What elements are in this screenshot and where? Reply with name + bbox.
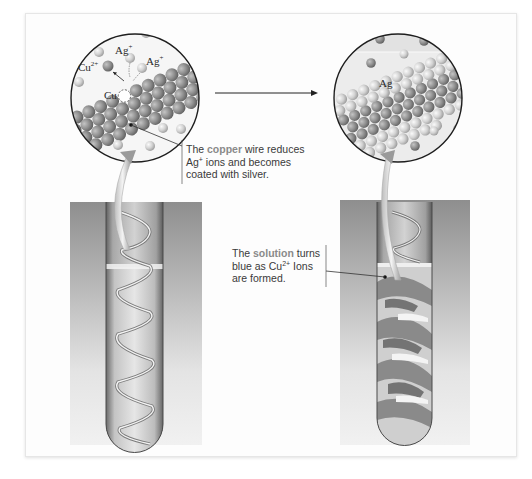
left-magnified-view: Ag+ Ag+ Cu2+ Cu (56, 28, 217, 162)
annotation-text: The (232, 247, 253, 259)
photo-before-test-tube (70, 202, 202, 457)
copper-highlight: copper (207, 143, 242, 155)
right-magnified-view: Ag (329, 23, 477, 164)
label-ag-metal: Ag (379, 77, 393, 89)
figure-graphics: Ag+ Ag+ Cu2+ Cu (0, 0, 532, 479)
annotation-text: wire reduces (242, 143, 304, 155)
solution-annotation: The solution turns blue as Cu2+ Ions are… (232, 247, 320, 285)
right-arrow-icon (215, 90, 318, 96)
charge-superscript: 2+ (282, 259, 290, 266)
annotation-text: turns (294, 247, 320, 259)
photo-after-test-tube (340, 200, 470, 456)
label-cu-metal: Cu (104, 89, 117, 101)
annotation-text: The (186, 143, 207, 155)
annotation-text: Ions (290, 260, 313, 272)
annotation-text: coated with silver. (186, 168, 304, 181)
annotation-text: Ag (186, 156, 199, 168)
copper-wire-annotation: The copper wire reduces Ag+ ions and bec… (186, 143, 304, 181)
annotation-text: blue as Cu (232, 260, 282, 272)
annotation-text: are formed. (232, 272, 320, 285)
solution-highlight: solution (253, 247, 294, 259)
annotation-text: ions and becomes (203, 156, 291, 168)
